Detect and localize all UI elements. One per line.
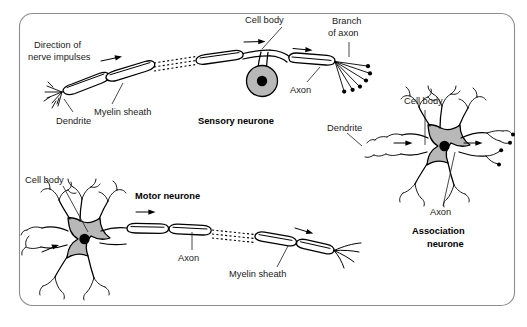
leader-cellbody-sensory (262, 27, 282, 49)
motor-impulse-arrow-1 (136, 210, 156, 215)
leader-myelin-sensory (112, 83, 123, 104)
motor-myelin-segment-3 (255, 232, 297, 246)
label-direction-line2: nerve impulses (28, 52, 91, 62)
sensory-neurone-group (44, 39, 372, 108)
sensory-axon-break (154, 57, 196, 72)
association-dendrite-trunk-upper (419, 106, 468, 128)
association-input-arm-branches (365, 134, 402, 157)
label-axon-motor: Axon (178, 253, 199, 263)
label-association-neurone-line2: neurone (427, 239, 464, 249)
label-dendrite-sensory: Dendrite (56, 116, 91, 126)
sensory-impulse-arrow-3 (293, 47, 313, 52)
motor-myelin-segment-4 (296, 239, 334, 253)
sensory-impulse-arrow-1 (101, 55, 122, 61)
association-impulse-arrow-left (394, 141, 413, 146)
motor-dendrite-trunk-upper (59, 199, 108, 221)
diagram-canvas: Direction of nerve impulses Myelin sheat… (0, 0, 527, 327)
leader-dendrite-sensory (64, 99, 73, 112)
label-association-neurone-line1: Association (412, 226, 465, 236)
sensory-myelin-segment-3 (196, 50, 243, 64)
leader-dendrite-association (347, 133, 362, 146)
neurone-diagram-figure: Direction of nerve impulses Myelin sheat… (0, 0, 527, 327)
sensory-dendrite-branches (44, 82, 62, 108)
association-dendrite-branches-lower (400, 184, 470, 207)
motor-impulse-arrow-2 (295, 228, 313, 234)
label-cell-body-sensory: Cell body (245, 15, 284, 25)
sensory-impulse-arrow-2 (244, 39, 266, 44)
association-input-arm (401, 134, 428, 155)
text-labels: Direction of nerve impulses Myelin sheat… (25, 15, 465, 279)
motor-input-arm-branches (21, 227, 42, 255)
label-axon-association: Axon (430, 207, 451, 217)
motor-dendrite-branches-lower (40, 277, 110, 300)
sensory-distal-axon (289, 53, 335, 65)
sensory-cell-body (247, 66, 278, 97)
label-direction-line1: Direction of (34, 40, 81, 50)
sensory-myelin-segment-1 (63, 72, 109, 94)
association-cell-body (427, 125, 470, 165)
motor-cell-body (67, 218, 110, 258)
label-motor-neurone-title: Motor neurone (135, 191, 200, 201)
association-axon-terminal (486, 131, 515, 167)
label-dendrite-association: Dendrite (327, 123, 362, 133)
motor-dendrite-trunk-lower (55, 256, 94, 278)
sensory-myelin-segment-2 (106, 61, 155, 81)
motor-axon-break (212, 230, 255, 243)
label-axon-sensory: Axon (290, 85, 311, 95)
motor-myelin-segment-1 (127, 223, 169, 233)
label-sensory-neurone-title: Sensory neurone (198, 116, 274, 126)
motor-axon-terminal (334, 243, 361, 268)
label-branch-of-axon-line2: of axon (328, 28, 359, 38)
sensory-axon-terminal (335, 62, 372, 94)
leader-myelin-motor (277, 246, 288, 267)
label-cell-body-association: Cell body (404, 96, 443, 106)
label-myelin-sheath-motor: Myelin sheath (229, 269, 286, 279)
label-myelin-sheath-sensory: Myelin sheath (94, 107, 151, 117)
leader-axon-sensory (307, 67, 320, 82)
label-cell-body-motor: Cell body (25, 175, 64, 185)
label-branch-of-axon-line1: Branch (332, 16, 361, 26)
motor-myelin-segment-2 (169, 224, 211, 235)
